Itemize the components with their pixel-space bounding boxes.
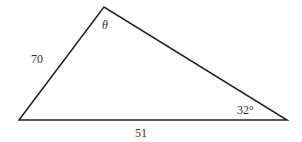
side-label-bottom: 51 (135, 126, 147, 140)
triangle-diagram: 70 θ 32° 51 (0, 0, 302, 142)
side-label-left: 70 (31, 52, 43, 66)
angle-label-right: 32° (237, 103, 254, 117)
angle-label-theta: θ (102, 18, 108, 32)
